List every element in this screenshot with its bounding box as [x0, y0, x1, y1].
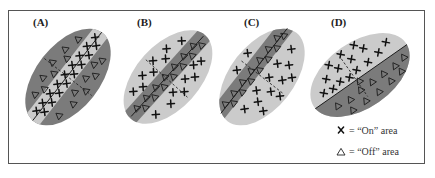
legend-off-text: = “Off” area — [349, 146, 399, 157]
receptive-field-diagram: (A) — [0, 0, 435, 178]
panel-a-label: (A) — [33, 16, 49, 29]
panel-d-label: (D) — [331, 16, 347, 29]
panel-c-label: (C) — [244, 16, 260, 29]
legend-on-text: = “On” area — [349, 125, 398, 136]
panel-b-label: (B) — [137, 16, 152, 29]
